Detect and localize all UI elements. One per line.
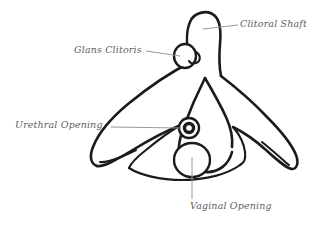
- label-vaginal-opening: Vaginal Opening: [190, 200, 272, 211]
- inner-labia-left-shape: [179, 78, 205, 153]
- urethral-opening-inner-shape: [185, 124, 194, 133]
- label-glans-clitoris: Glans Clitoris: [74, 44, 142, 55]
- leader-urethral-opening: [111, 127, 181, 128]
- label-clitoral-shaft: Clitoral Shaft: [240, 18, 307, 29]
- left-labia-tip-shape: [100, 150, 136, 162]
- right-outer-labia-shape: [221, 76, 297, 169]
- anatomy-diagram: Clitoral Shaft Glans Clitoris Urethral O…: [0, 0, 316, 226]
- inner-labia-right-shape: [205, 78, 232, 147]
- anatomy-figure: [0, 0, 316, 226]
- label-urethral-opening: Urethral Opening: [15, 119, 103, 130]
- right-labia-notch-shape: [262, 142, 289, 165]
